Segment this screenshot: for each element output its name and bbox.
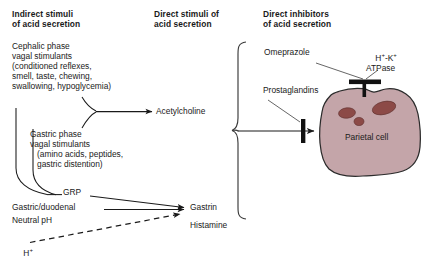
hydrogen-ion-charge: + (29, 247, 33, 253)
label-histamine: Histamine (190, 221, 227, 231)
label-gastrin: Gastrin (190, 203, 217, 213)
label-cephalic-phase: Cephalic phase vagal stimulants (conditi… (12, 42, 111, 92)
label-parietal-cell: Parietal cell (345, 133, 388, 143)
omeprazole-leader-line (316, 63, 363, 79)
label-acetylcholine: Acetylcholine (156, 107, 205, 117)
heading-indirect-stimuli: Indirect stimuli of acid secretion (12, 10, 80, 30)
label-gastric-phase: Gastric phase vagal stimulants (amino ac… (30, 130, 123, 170)
heading-direct-inhibitors: Direct inhibitors of acid secretion (263, 10, 331, 30)
label-gastric-duodenal: Gastric/duodenal (12, 203, 75, 213)
atpase-k-symbol: -K (385, 53, 393, 63)
label-prostaglandins: Prostaglandins (263, 86, 318, 96)
grp-to-gastrin-arrow (90, 196, 184, 208)
atpase-k-charge: + (393, 52, 397, 58)
diagram-canvas: Indirect stimuli of acid secretion Direc… (0, 0, 435, 265)
label-hk-atpase: H+-K+ATPase (366, 42, 397, 83)
atpase-word: ATPase (366, 63, 395, 73)
prostaglandins-leader-line (268, 100, 300, 122)
label-omeprazole: Omeprazole (264, 48, 310, 58)
acetylcholine-brace (82, 97, 96, 128)
organelle-small (354, 117, 364, 125)
heading-direct-stimuli: Direct stimuli of acid secretion (154, 10, 219, 30)
label-hydrogen-ion: H+ (14, 237, 33, 265)
prostaglandin-receptor-bar-icon (301, 119, 305, 143)
label-neutral-ph: Neutral pH (12, 216, 52, 226)
hydrogen-dashed-arrow (30, 214, 180, 243)
label-grp: GRP (63, 188, 81, 198)
